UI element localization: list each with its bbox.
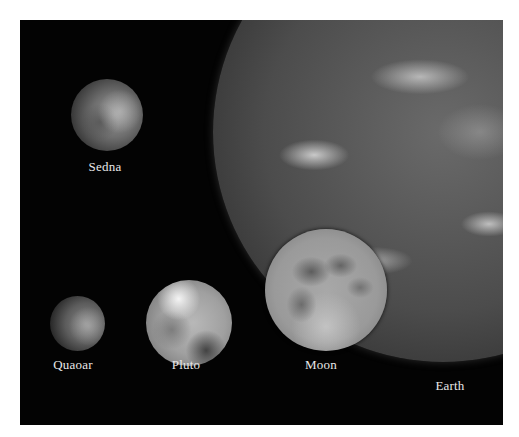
quaoar-image [50,296,105,351]
moon-label: Moon [305,357,337,373]
figure-panel: Sedna Quaoar Pluto Moon Earth [20,20,503,425]
pluto-image [146,280,232,366]
moon-image [265,229,387,351]
pluto-label: Pluto [172,357,200,373]
sedna-label: Sedna [89,159,122,175]
sedna-image [71,79,143,151]
earth-label: Earth [435,378,464,394]
quaoar-label: Quaoar [53,357,92,373]
